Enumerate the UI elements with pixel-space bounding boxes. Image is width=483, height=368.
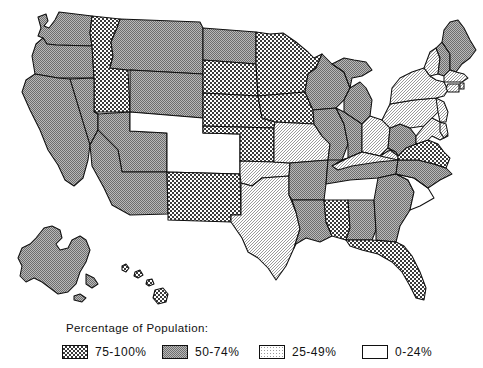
legend-items: 75-100% 50-74% 25-49% 0-24% bbox=[62, 342, 462, 364]
state-HI[interactable] bbox=[122, 264, 168, 304]
state-IA[interactable] bbox=[258, 92, 314, 124]
legend-swatch-0-24 bbox=[362, 345, 388, 359]
legend-label-0-24: 0-24% bbox=[395, 345, 432, 359]
legend-item-50-74[interactable]: 50-74% bbox=[162, 342, 239, 362]
state-AR[interactable] bbox=[289, 160, 328, 200]
us-map-svg bbox=[0, 0, 483, 320]
legend-swatch-75-100 bbox=[62, 345, 88, 359]
state-SD[interactable] bbox=[203, 60, 258, 96]
state-WY[interactable] bbox=[130, 70, 203, 118]
state-NM[interactable] bbox=[167, 172, 241, 222]
legend-swatch-25-49 bbox=[259, 345, 285, 359]
legend-label-75-100: 75-100% bbox=[95, 345, 147, 359]
legend-item-0-24[interactable]: 0-24% bbox=[362, 342, 432, 362]
state-MA[interactable] bbox=[444, 70, 468, 82]
state-NJ[interactable] bbox=[436, 98, 448, 122]
state-ND[interactable] bbox=[203, 28, 256, 64]
legend-title: Percentage of Population: bbox=[66, 322, 208, 334]
state-WA[interactable] bbox=[38, 12, 92, 46]
legend-item-75-100[interactable]: 75-100% bbox=[62, 342, 147, 362]
state-CT[interactable] bbox=[446, 84, 459, 92]
choropleth-figure: Percentage of Population: 75-100% 50-74%… bbox=[0, 0, 483, 368]
state-MT[interactable] bbox=[110, 19, 203, 74]
map-legend: Percentage of Population: 75-100% 50-74%… bbox=[0, 320, 483, 368]
state-GA[interactable] bbox=[374, 174, 414, 242]
state-RI[interactable] bbox=[460, 83, 464, 89]
state-AL[interactable] bbox=[346, 200, 376, 240]
legend-label-50-74: 50-74% bbox=[195, 345, 239, 359]
us-map bbox=[0, 0, 483, 320]
legend-swatch-50-74 bbox=[162, 345, 188, 359]
legend-label-25-49: 25-49% bbox=[292, 345, 336, 359]
state-AK[interactable] bbox=[18, 226, 98, 302]
state-FL[interactable] bbox=[346, 240, 426, 300]
legend-item-25-49[interactable]: 25-49% bbox=[259, 342, 336, 362]
